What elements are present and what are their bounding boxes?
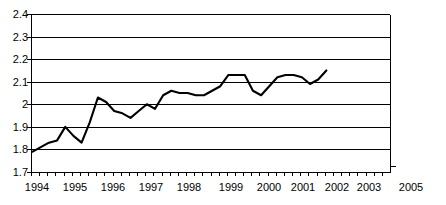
y-tickmarks <box>27 15 31 173</box>
x-axis-tick-label: 1997 <box>139 182 163 193</box>
x-axis-tick-label: 1995 <box>63 182 87 193</box>
plot-frame <box>32 15 391 173</box>
x-axis-tick-label: 2003 <box>357 182 381 193</box>
x-tickmarks <box>32 167 397 177</box>
x-axis-tick-label: 1994 <box>25 182 49 193</box>
x-axis-tick-label: 2005 <box>399 182 423 193</box>
x-axis-tick-label: 2002 <box>325 182 349 193</box>
x-axis-tick-label: 2000 <box>257 182 281 193</box>
x-axis-tick-label: 1996 <box>101 182 125 193</box>
x-axis-tick-label: 1998 <box>177 182 201 193</box>
plot-area <box>0 0 446 205</box>
gridlines <box>31 15 390 173</box>
x-axis-tick-label: 1999 <box>219 182 243 193</box>
x-axis-tick-label: 2001 <box>291 182 315 193</box>
line-chart: 2.42.32.22.121.91.81.7 19941995199619971… <box>0 0 446 205</box>
